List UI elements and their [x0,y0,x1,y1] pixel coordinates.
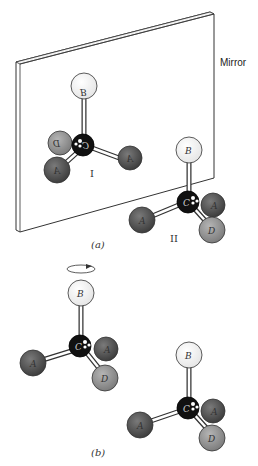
svg-text:D: D [207,434,215,444]
svg-text:A: A [53,166,61,176]
molecule-II-label: II [170,233,178,244]
panel-a-caption: (a) [91,239,105,250]
svg-text:A: A [210,201,218,211]
svg-text:B: B [184,351,192,361]
rotation-arrow-icon [67,264,95,273]
svg-text:A: A [136,421,144,431]
svg-text:A: A [210,407,218,417]
svg-text:D: D [207,226,215,236]
panel-b-caption: (b) [91,447,105,458]
molecule-II-copy: B A C A D [127,342,225,451]
mirror-image-diagram: Mirror D B C A A I B A C A [0,0,258,466]
svg-text:B: B [76,289,84,299]
svg-text:A: A [29,359,37,369]
svg-text:C: C [183,404,190,414]
svg-text:D: D [100,374,108,384]
svg-text:B: B [184,146,192,156]
svg-text:A: A [103,345,111,355]
svg-text:C: C [183,198,190,208]
svg-text:B: B [79,87,87,97]
mirror-label: Mirror [220,57,247,68]
svg-text:A: A [126,154,134,164]
svg-text:A: A [138,216,146,226]
svg-text:D: D [53,139,61,149]
molecule-I-label: I [90,168,94,179]
svg-text:C: C [82,141,89,151]
molecule-rotated: B A C A D [20,280,118,391]
svg-text:C: C [75,342,82,352]
